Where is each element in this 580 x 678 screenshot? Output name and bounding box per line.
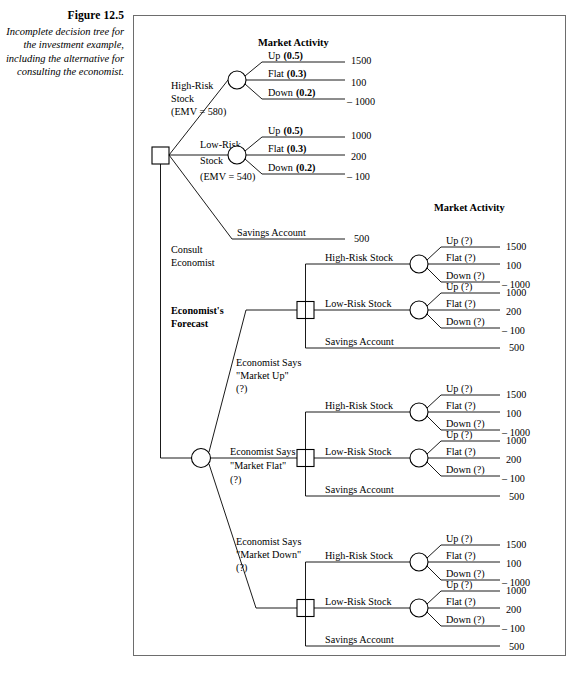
payoff-b1-savings: 500 [509, 342, 524, 353]
chance-node-b3-high[interactable] [410, 553, 428, 571]
payoff-b3-savings: 500 [509, 641, 524, 652]
branch-b2h-flat: Flat (?) [446, 400, 476, 412]
label-low-risk-emv-l2: Stock [200, 155, 224, 166]
label-says-market-up-l3: (?) [236, 383, 247, 395]
label-b2-savings: Savings Account [325, 484, 394, 495]
decision-tree-diagram: Market Activity High-Risk Stock (EMV = 5… [0, 0, 580, 678]
label-says-market-flat-l1: Economist Says [230, 446, 295, 457]
branch-b2l-flat: Flat (?) [446, 446, 476, 458]
branch-b3l-flat: Flat (?) [446, 596, 476, 608]
edge-b1l-up [427, 293, 441, 306]
chance-node-economist-forecast[interactable] [192, 449, 211, 468]
branch-b2l-up: Up (?) [446, 429, 472, 441]
branch-b3l-down: Down (?) [446, 614, 485, 626]
label-high-risk-emv-l1: High-Risk [171, 80, 214, 91]
branch-up-high-top: Up(0.5) [268, 50, 303, 62]
label-says-market-up-l1: Economist Says [236, 357, 301, 368]
edge-hr-up-top [245, 62, 262, 76]
payoff-b3l-flat: 200 [506, 604, 521, 615]
payoff-b2h-flat: 100 [506, 408, 521, 419]
branch-b1h-flat: Flat (?) [446, 252, 476, 264]
payoff-low-flat-top: 200 [351, 151, 366, 162]
edge-b2h-up [427, 395, 441, 408]
market-activity-header-top: Market Activity [258, 37, 329, 48]
payoff-b2h-up: 1500 [506, 389, 526, 400]
label-economists-forecast-l1: Economist's [171, 305, 224, 316]
payoff-b1h-up: 1500 [506, 241, 526, 252]
payoff-low-up-top: 1000 [351, 130, 371, 141]
label-says-market-down-l2: "Market Down" [236, 549, 301, 560]
figure-container: Figure 12.5 Incomplete decision tree for… [0, 0, 580, 678]
label-says-market-flat-l2: "Market Flat" [230, 460, 286, 471]
branch-down-low-top: Down(0.2) [268, 162, 315, 174]
label-b1-high-risk: High-Risk Stock [325, 252, 394, 263]
label-b1-savings: Savings Account [325, 336, 394, 347]
label-says-market-down-l3: (?) [236, 562, 247, 574]
edge-b3l-down [427, 612, 441, 626]
payoff-high-down-top: – 1000 [346, 96, 375, 107]
payoff-b2l-down: – 100 [501, 473, 525, 484]
payoff-b1h-flat: 100 [506, 260, 521, 271]
edge-root-savings [169, 155, 232, 239]
label-b2-low-risk: Low-Risk Stock [325, 446, 392, 457]
edge-b3l-up [427, 591, 441, 604]
payoff-b3h-up: 1500 [506, 539, 526, 550]
chance-node-b1-low[interactable] [410, 301, 428, 319]
edge-b3h-down [427, 566, 441, 580]
label-savings-account-top: Savings Account [237, 227, 306, 238]
payoff-b2l-flat: 200 [506, 454, 521, 465]
edge-b2l-down [427, 462, 441, 476]
branch-b3l-up: Up (?) [446, 579, 472, 591]
chance-node-low-risk-top[interactable] [228, 146, 246, 164]
branch-b3h-flat: Flat (?) [446, 550, 476, 562]
branch-down-high-top: Down(0.2) [268, 87, 315, 99]
payoff-low-down-top: – 100 [346, 171, 370, 182]
branch-b1l-up: Up (?) [446, 281, 472, 293]
branch-b1l-down: Down (?) [446, 316, 485, 328]
label-b2-high-risk: High-Risk Stock [325, 400, 394, 411]
chance-node-high-risk-top[interactable] [228, 71, 246, 89]
branch-b3h-up: Up (?) [446, 533, 472, 545]
branch-b1h-up: Up (?) [446, 235, 472, 247]
branch-b2h-up: Up (?) [446, 383, 472, 395]
payoff-b2l-up: 1000 [506, 435, 526, 446]
branch-b2l-down: Down (?) [446, 464, 485, 476]
root-decision-node[interactable] [152, 147, 169, 164]
edge-b1h-down [427, 268, 441, 282]
payoff-b2-savings: 500 [509, 491, 524, 502]
edge-b1l-down [427, 314, 441, 328]
label-says-market-flat-l3: (?) [230, 474, 241, 486]
chance-node-b2-low[interactable] [410, 449, 428, 467]
payoff-b1l-up: 1000 [506, 287, 526, 298]
payoff-b1l-down: – 100 [501, 325, 525, 336]
label-says-market-up-l2: "Market Up" [236, 370, 289, 381]
chance-node-b1-high[interactable] [410, 255, 428, 273]
edge-b2l-up [427, 441, 441, 454]
label-economists-forecast-l2: Forecast [171, 318, 209, 329]
branch-up-low-top: Up(0.5) [268, 125, 303, 137]
payoff-high-flat-top: 100 [351, 77, 366, 88]
payoff-high-up-top: 1500 [351, 55, 371, 66]
chance-node-b3-low[interactable] [410, 599, 428, 617]
payoff-b1l-flat: 200 [506, 306, 521, 317]
label-b3-high-risk: High-Risk Stock [325, 550, 394, 561]
edge-b1h-up [427, 247, 441, 260]
label-low-risk-emv-l3: (EMV = 540) [200, 171, 255, 183]
chance-node-b2-high[interactable] [410, 403, 428, 421]
label-b3-savings: Savings Account [325, 634, 394, 645]
payoff-savings-top: 500 [354, 233, 369, 244]
label-high-risk-emv-l2: Stock [171, 93, 195, 104]
label-consult-economist-l1: Consult [171, 244, 203, 255]
label-consult-economist-l2: Economist [171, 257, 215, 268]
edge-hr-down-top [245, 84, 262, 99]
label-says-market-down-l1: Economist Says [236, 536, 301, 547]
edge-forecast-up [209, 310, 246, 452]
label-high-risk-emv-l3: (EMV = 580) [171, 106, 226, 118]
edge-lr-up-top [245, 137, 262, 151]
edge-b2h-down [427, 416, 441, 430]
label-b3-low-risk: Low-Risk Stock [325, 596, 392, 607]
market-activity-header-mid: Market Activity [434, 202, 505, 213]
branch-b1l-flat: Flat (?) [446, 298, 476, 310]
payoff-b3l-up: 1000 [506, 585, 526, 596]
edge-b3h-up [427, 545, 441, 558]
